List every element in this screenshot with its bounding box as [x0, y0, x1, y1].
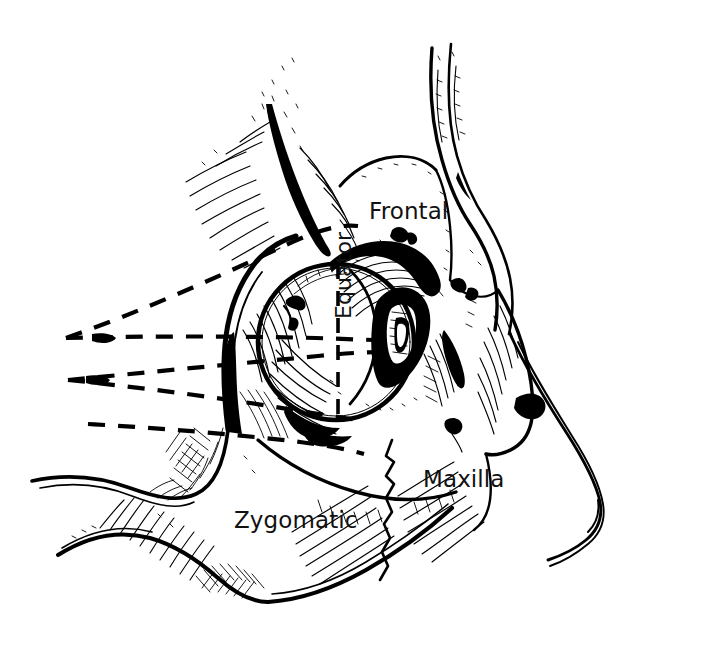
label-zygomatic: Zygomatic [234, 509, 358, 532]
label-frontal: Frontal [369, 200, 448, 223]
orbit-anatomy-drawing [0, 0, 712, 648]
anatomy-figure: Frontal Maxilla Zygomatic Equator [0, 0, 712, 648]
label-equator-text: Equator [333, 232, 355, 319]
label-equator: Equator [333, 232, 355, 319]
label-maxilla: Maxilla [423, 468, 505, 491]
